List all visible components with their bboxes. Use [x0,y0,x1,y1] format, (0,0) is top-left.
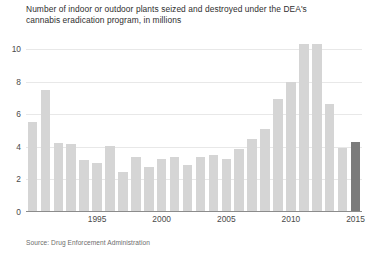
bar [196,157,206,212]
y-axis-tick-label: 2 [16,174,21,184]
y-axis-tick-label: 0 [16,207,21,217]
bar [79,160,89,212]
x-axis-tick-label: 2010 [282,214,301,224]
bar [170,157,180,212]
bar [351,142,361,212]
bar [131,157,141,212]
x-axis-tick-label: 1995 [88,214,107,224]
y-axis-tick-label: 4 [16,142,21,152]
y-axis-tick-label: 6 [16,109,21,119]
bar [273,99,283,212]
y-axis-tick-label: 10 [12,44,21,54]
bar [157,159,167,212]
x-axis: 19952000200520102015 [26,214,362,228]
bar [247,139,257,212]
bar [299,44,309,212]
bar [183,165,193,212]
bar [54,143,64,212]
bar [286,82,296,212]
bar [222,159,232,212]
y-axis-tick-label: 8 [16,77,21,87]
bar [312,44,322,212]
source-note: Source: Drug Enforcement Administration [26,239,150,246]
x-axis-tick-label: 2015 [346,214,365,224]
bar [234,149,244,212]
bar [28,122,38,212]
bar [66,144,76,212]
bar [338,148,348,212]
bar-series [26,36,362,212]
bar [41,90,51,212]
x-axis-tick-label: 2005 [217,214,236,224]
bar [325,104,335,212]
bar [105,146,115,212]
chart-title: Number of indoor or outdoor plants seize… [26,4,346,26]
bar [209,155,219,212]
bar [260,129,270,212]
chart-figure: Number of indoor or outdoor plants seize… [0,0,371,259]
x-axis-tick-label: 2000 [152,214,171,224]
x-axis-line [26,211,362,212]
bar [92,163,102,212]
bar [118,172,128,212]
bar [144,167,154,212]
